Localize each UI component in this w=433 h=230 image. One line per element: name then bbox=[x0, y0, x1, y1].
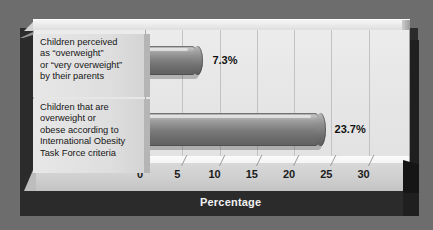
bar-1[interactable] bbox=[144, 46, 198, 75]
bar-1-highlight bbox=[148, 48, 188, 51]
category-label-shadow-2 bbox=[144, 99, 150, 173]
bar-2-end-cap bbox=[315, 113, 326, 146]
category-label-2: Children that are overweight or obese ac… bbox=[33, 99, 144, 173]
x-axis-title: Percentage bbox=[200, 196, 261, 208]
axis-tick-label-25: 25 bbox=[311, 168, 341, 180]
floor-right-shadow bbox=[403, 160, 419, 193]
category-label-shadow-1 bbox=[144, 34, 150, 97]
axis-tick-label-20: 20 bbox=[274, 168, 304, 180]
axis-tick-label-5: 5 bbox=[162, 168, 192, 180]
category-label-2-text: Children that are overweight or obese ac… bbox=[40, 102, 140, 159]
gridline-30 bbox=[369, 30, 370, 163]
bar-value-label-1: 7.3% bbox=[212, 54, 237, 66]
axis-tick-label-30: 30 bbox=[349, 168, 379, 180]
gridline-25 bbox=[331, 30, 332, 163]
axis-tick-label-15: 15 bbox=[237, 168, 267, 180]
category-label-1-text: Children perceived as “overweight” or “v… bbox=[40, 37, 140, 83]
axis-tick-label-10: 10 bbox=[200, 168, 230, 180]
bar-value-label-2: 23.7% bbox=[335, 123, 366, 135]
bar-2[interactable] bbox=[144, 113, 321, 146]
chart-figure: 051015202530 7.3%23.7% Children perceive… bbox=[0, 0, 433, 230]
bar-2-highlight bbox=[148, 115, 311, 118]
category-label-1: Children perceived as “overweight” or “v… bbox=[33, 34, 144, 97]
